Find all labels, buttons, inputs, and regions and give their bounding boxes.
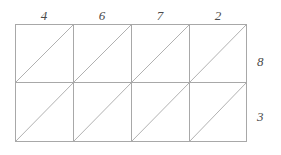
- diagonal-r1c3: [132, 25, 190, 83]
- row-label-1: 8: [257, 55, 264, 68]
- diagonal-r2c2: [74, 83, 132, 142]
- diagonal-r1c4: [190, 25, 247, 83]
- diagonal-r1c2: [74, 25, 132, 83]
- row-label-2: 3: [257, 110, 264, 123]
- diagonal-r2c3: [132, 83, 190, 142]
- diagonal-r1c1: [16, 25, 74, 83]
- column-label-3: 7: [157, 9, 164, 22]
- grid-diagram-figure: [0, 0, 281, 155]
- diagonal-r2c1: [16, 83, 74, 142]
- diagram-canvas: 4 6 7 2 8 3: [0, 0, 281, 155]
- diagonal-r2c4: [190, 83, 247, 142]
- column-label-2: 6: [99, 9, 106, 22]
- column-label-4: 2: [215, 9, 222, 22]
- column-label-1: 4: [41, 9, 48, 22]
